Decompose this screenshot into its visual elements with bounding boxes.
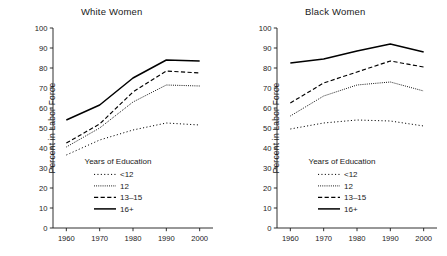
plot-area-black-women: 0102030405060708090100196019701980199020… xyxy=(224,0,447,256)
x-tick-label: 1970 xyxy=(91,234,108,243)
series-line-12 xyxy=(66,85,199,147)
series-line-16 xyxy=(66,60,199,120)
y-tick-label: 70 xyxy=(39,84,47,93)
y-tick-label: 40 xyxy=(39,144,47,153)
y-tick-label: 0 xyxy=(43,224,47,233)
panel-black-women: Black Women Percent in Labor Force 01020… xyxy=(224,0,447,256)
legend-label-2: 13–15 xyxy=(344,193,367,202)
legend-label-0: <12 xyxy=(344,170,358,179)
y-tick-label: 60 xyxy=(39,104,47,113)
figure: White Women Percent in Labor Force 01020… xyxy=(0,0,447,256)
legend-label-3: 16+ xyxy=(344,205,358,214)
y-tick-label: 30 xyxy=(263,164,271,173)
y-tick-label: 10 xyxy=(39,204,47,213)
x-tick-label: 1980 xyxy=(125,234,142,243)
x-tick-label: 1980 xyxy=(348,234,365,243)
y-tick-label: 90 xyxy=(39,44,47,53)
x-tick-label: 1970 xyxy=(315,234,332,243)
y-tick-label: 90 xyxy=(263,44,271,53)
legend-label-1: 12 xyxy=(344,182,353,191)
y-tick-label: 30 xyxy=(39,164,47,173)
y-tick-label: 20 xyxy=(263,184,271,193)
x-tick-label: 2000 xyxy=(415,234,432,243)
series-line-12 xyxy=(290,82,423,116)
legend-label-0: <12 xyxy=(120,170,134,179)
y-tick-label: 80 xyxy=(263,64,271,73)
legend-label-1: 12 xyxy=(120,182,129,191)
x-tick-label: 2000 xyxy=(191,234,208,243)
series-line-12 xyxy=(290,120,423,129)
y-tick-label: 50 xyxy=(263,124,271,133)
y-tick-label: 0 xyxy=(267,224,271,233)
y-tick-label: 100 xyxy=(35,24,48,33)
y-tick-label: 50 xyxy=(39,124,47,133)
legend-label-3: 16+ xyxy=(120,205,134,214)
y-tick-label: 40 xyxy=(263,144,271,153)
legend-title: Years of Education xyxy=(308,157,375,166)
series-line-12 xyxy=(66,123,199,155)
y-tick-label: 60 xyxy=(263,104,271,113)
panel-white-women: White Women Percent in Labor Force 01020… xyxy=(0,0,224,256)
x-tick-label: 1960 xyxy=(281,234,298,243)
series-line-16 xyxy=(290,44,423,63)
series-line-13-15 xyxy=(66,71,199,143)
x-tick-label: 1990 xyxy=(158,234,175,243)
y-tick-label: 100 xyxy=(258,24,271,33)
y-tick-label: 70 xyxy=(263,84,271,93)
series-line-13-15 xyxy=(290,61,423,103)
legend-label-2: 13–15 xyxy=(120,193,143,202)
y-tick-label: 20 xyxy=(39,184,47,193)
x-tick-label: 1990 xyxy=(381,234,398,243)
y-tick-label: 10 xyxy=(263,204,271,213)
x-tick-label: 1960 xyxy=(58,234,75,243)
plot-area-white-women: 0102030405060708090100196019701980199020… xyxy=(0,0,224,256)
y-tick-label: 80 xyxy=(39,64,47,73)
legend-title: Years of Education xyxy=(85,157,152,166)
